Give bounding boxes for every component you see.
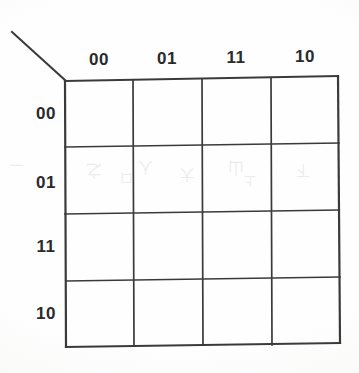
row-header-3: 10	[36, 305, 56, 322]
karnaugh-map-figure: 一 之 口 人 大 山 上 下 00 01 11 10	[0, 0, 359, 373]
column-header-3: 10	[295, 48, 315, 65]
row-header-1: 01	[36, 174, 56, 191]
column-header-1: 01	[157, 50, 177, 67]
corner-diagonal-line	[12, 32, 65, 80]
column-header-2: 11	[227, 49, 246, 66]
row-header-0: 00	[36, 105, 56, 122]
column-header-0: 00	[89, 51, 109, 68]
row-header-2: 11	[37, 238, 56, 255]
